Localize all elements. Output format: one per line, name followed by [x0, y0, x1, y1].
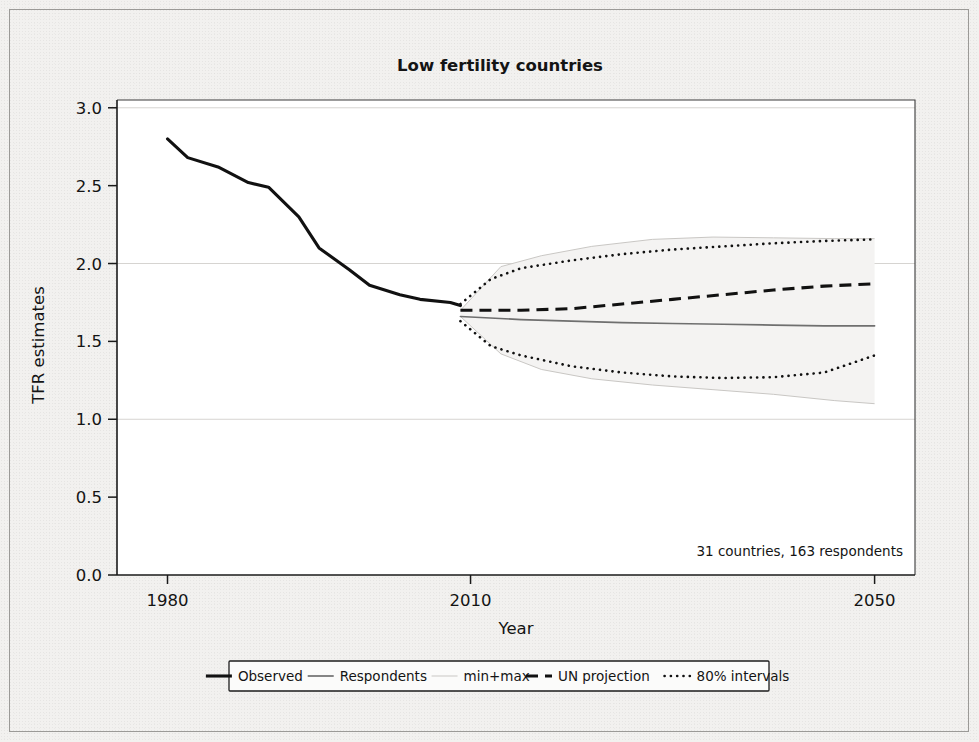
legend-label-observed: Observed	[238, 668, 303, 684]
legend-label-respondents: Respondents	[340, 668, 427, 684]
x-tick-label-2050: 2050	[854, 591, 896, 610]
y-tick-label-0.0: 0.0	[76, 566, 102, 585]
y-tick-label-2.5: 2.5	[76, 177, 102, 196]
chart-title: Low fertility countries	[397, 56, 603, 75]
y-tick-label-3.0: 3.0	[76, 99, 102, 118]
y-tick-label-1.0: 1.0	[76, 410, 102, 429]
legend-label-min-max: min+max	[464, 668, 530, 684]
x-tick-label-2010: 2010	[450, 591, 492, 610]
y-axis-label: TFR estimates	[29, 286, 48, 404]
figure-root: 0.00.51.01.52.02.53.0 198020102050 Low f…	[0, 0, 979, 742]
y-tick-label-2.0: 2.0	[76, 255, 102, 274]
tfr-projection-chart: 0.00.51.01.52.02.53.0 198020102050 Low f…	[0, 0, 979, 742]
x-tick-label-1980: 1980	[147, 591, 189, 610]
y-tick-label-1.5: 1.5	[76, 332, 102, 351]
y-axis-ticks: 0.00.51.01.52.02.53.0	[76, 99, 117, 585]
x-axis-label: Year	[498, 619, 534, 638]
legend-items: ObservedRespondentsmin+maxUN projection8…	[206, 668, 789, 684]
sample-size-annotation: 31 countries, 163 respondents	[696, 543, 903, 559]
x-axis-ticks: 198020102050	[147, 575, 896, 610]
chart-legend: ObservedRespondentsmin+maxUN projection8…	[206, 661, 789, 691]
legend-label-un-projection: UN projection	[558, 668, 650, 684]
legend-label-80-intervals: 80% intervals	[697, 668, 790, 684]
y-tick-label-0.5: 0.5	[76, 488, 102, 507]
